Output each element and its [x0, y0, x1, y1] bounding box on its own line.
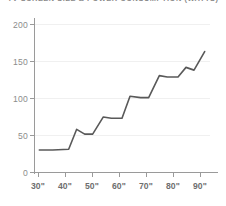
chart-container: TV SCREEN SIZE & POWER CONSUMPTION (WATT… — [0, 0, 226, 206]
line-series-power-consumption — [39, 52, 204, 150]
data-series-layer — [0, 0, 226, 206]
